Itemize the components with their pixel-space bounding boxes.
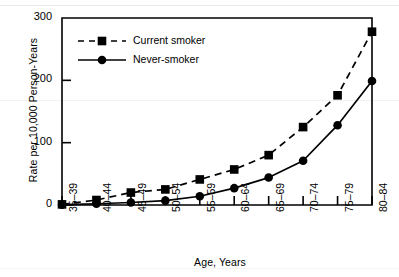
series-line-1: [62, 32, 372, 205]
data-point-marker: [230, 184, 239, 193]
data-point-marker: [299, 123, 308, 132]
x-axis-tick-label: 75–79: [343, 183, 355, 212]
y-axis-tick-label: 200: [18, 72, 52, 84]
x-axis-tick-label: 40–44: [101, 183, 113, 212]
x-axis-tick-label: 65–69: [274, 183, 286, 212]
data-point-marker: [127, 188, 136, 197]
x-axis-tick-label: 55–59: [205, 183, 217, 212]
legend-label-1: Current smoker: [133, 34, 205, 46]
data-point-marker: [264, 151, 273, 160]
data-point-marker: [299, 156, 308, 165]
legend-marks: [78, 37, 126, 65]
data-point-marker: [333, 91, 342, 100]
plot-frame: [62, 18, 372, 205]
data-series-layer: [58, 27, 377, 209]
x-axis-tick-label: 50–54: [170, 183, 182, 212]
data-point-marker: [333, 121, 342, 130]
data-point-marker: [195, 175, 204, 184]
data-point-marker: [58, 200, 67, 209]
figure-container: Rate per 10,000 Person-Years Age, Years …: [0, 0, 399, 277]
data-point-marker: [264, 173, 273, 182]
x-axis-tick-label: 80–84: [377, 183, 389, 212]
x-axis-tick-label: 45–49: [136, 183, 148, 212]
y-axis-tick-label: 100: [18, 135, 52, 147]
data-point-marker: [195, 192, 204, 201]
data-point-marker: [161, 185, 170, 194]
legend-label-2: Never-smoker: [133, 53, 199, 65]
data-point-marker: [368, 27, 377, 36]
data-point-marker: [230, 165, 239, 174]
data-point-marker: [127, 198, 136, 207]
x-axis-tick-label: 35–39: [67, 183, 79, 212]
y-axis-tick-label: 0: [18, 197, 52, 209]
legend-marker-2: [98, 56, 107, 65]
data-point-marker: [92, 199, 101, 208]
legend-marker-1: [98, 37, 107, 46]
y-axis-tick-label: 300: [18, 10, 52, 22]
data-point-marker: [368, 77, 377, 86]
x-axis-tick-label: 60–64: [239, 183, 251, 212]
x-axis-tick-label: 70–74: [308, 183, 320, 212]
data-point-marker: [161, 196, 170, 205]
